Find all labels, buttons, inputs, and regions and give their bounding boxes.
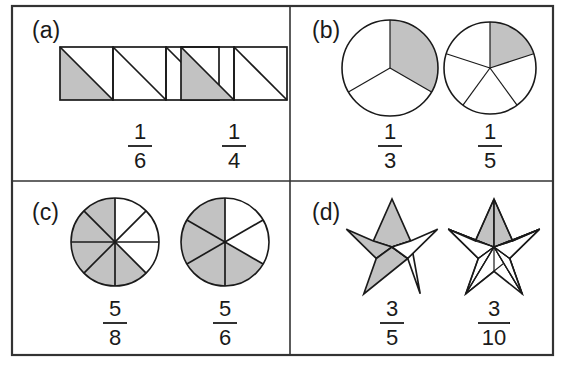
fraction-numerator: 1 <box>484 119 496 144</box>
figure-canvas: (a) 1 6 <box>0 0 562 371</box>
panel-a: (a) 1 6 <box>32 17 287 173</box>
fraction-denominator: 3 <box>384 148 396 173</box>
panel-c-model-five-sixths <box>181 198 269 286</box>
panel-a-model-one-quarter <box>181 47 287 100</box>
panel-a-fraction-one-quarter: 1 4 <box>222 119 246 173</box>
panel-d-model-three-fifths <box>346 199 437 294</box>
kite-top-shaded <box>373 199 410 247</box>
panel-a-fraction-one-sixth: 1 6 <box>128 119 152 173</box>
panel-c-fraction-five-sixths: 5 6 <box>213 296 237 350</box>
panel-b-model-one-third <box>342 20 438 116</box>
panel-c: (c) 5 8 <box>32 198 269 350</box>
panel-b-fraction-one-third: 1 3 <box>378 119 402 173</box>
sector-line-5 <box>446 54 490 68</box>
panel-c-fraction-five-eighths: 5 8 <box>103 296 127 350</box>
panel-a-label: (a) <box>32 17 60 43</box>
sector-line-4 <box>463 68 490 105</box>
diagonal-2 <box>234 47 287 100</box>
fraction-numerator: 3 <box>386 296 398 321</box>
sector-line-3 <box>490 68 517 105</box>
panel-d-label: (d) <box>312 199 340 225</box>
fraction-denominator: 5 <box>386 325 398 350</box>
fraction-numerator: 1 <box>228 119 240 144</box>
fraction-denominator: 4 <box>228 148 240 173</box>
fraction-numerator: 5 <box>219 296 231 321</box>
diagonal-2 <box>113 47 166 100</box>
panel-d-model-three-tenths <box>448 199 539 294</box>
fraction-numerator: 1 <box>384 119 396 144</box>
panel-b-fraction-one-fifth: 1 5 <box>478 119 502 173</box>
panel-d-fraction-three-tenths: 3 10 <box>478 296 510 350</box>
fraction-numerator: 3 <box>488 296 500 321</box>
panel-b-model-one-fifth <box>444 22 536 114</box>
fraction-numerator: 5 <box>109 296 121 321</box>
panel-b: (b) 1 3 <box>312 17 536 173</box>
fraction-denominator: 6 <box>134 148 146 173</box>
panel-c-label: (c) <box>32 199 59 225</box>
fraction-denominator: 8 <box>109 325 121 350</box>
panel-c-model-five-eighths <box>71 198 159 286</box>
panel-d: (d) 3 5 <box>312 199 540 350</box>
fraction-denominator: 6 <box>219 325 231 350</box>
fraction-numerator: 1 <box>134 119 146 144</box>
fraction-figure: (a) 1 6 <box>0 0 562 371</box>
fraction-denominator: 5 <box>484 148 496 173</box>
panel-b-label: (b) <box>312 17 340 43</box>
panel-d-fraction-three-fifths: 3 5 <box>380 296 404 350</box>
fraction-denominator: 10 <box>482 325 506 350</box>
sector-line-3 <box>348 68 390 92</box>
